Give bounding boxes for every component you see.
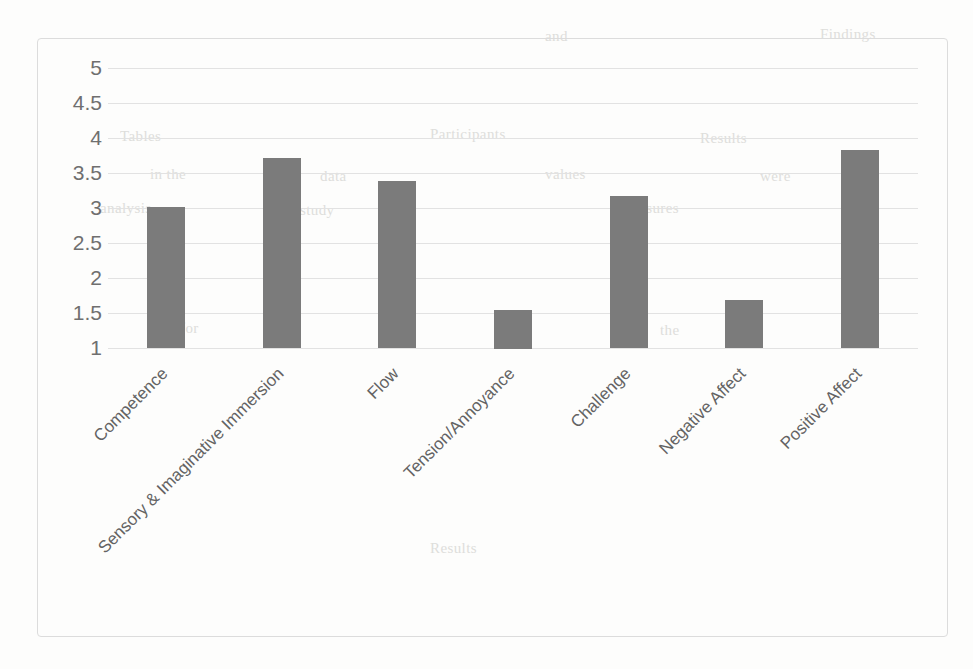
x-axis-category-label: Flow: [149, 364, 404, 619]
x-axis-category-label: Sensory & Imaginative Immersion: [33, 364, 288, 619]
x-axis-category-label: Positive Affect: [612, 364, 867, 619]
x-axis-category-labels: CompetenceSensory & Imaginative Immersio…: [0, 0, 973, 669]
x-axis-category-label: Negative Affect: [496, 364, 751, 619]
x-axis-category-label: Challenge: [380, 364, 635, 619]
x-axis-category-label: Tension/Annoyance: [265, 364, 520, 619]
